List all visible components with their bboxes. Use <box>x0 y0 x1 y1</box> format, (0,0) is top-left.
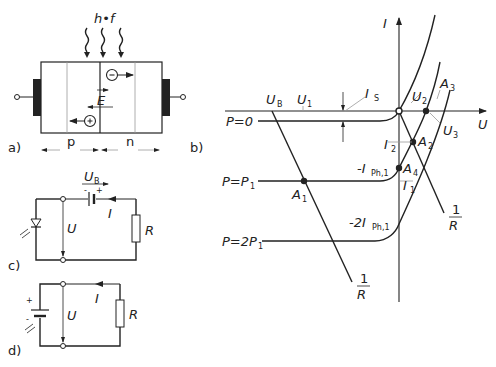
terminal-top <box>61 197 66 202</box>
panel-c-label: c) <box>8 258 20 273</box>
svg-text:B: B <box>94 177 100 186</box>
svg-text:-: - <box>26 315 29 324</box>
panel-c-circuit: U B - + I R U c) <box>8 169 154 273</box>
right-contact <box>162 79 170 116</box>
terminal-bottom <box>61 258 66 263</box>
svg-text:1: 1 <box>302 195 307 204</box>
current-label: I <box>95 291 99 306</box>
photodiode-icon <box>20 219 41 238</box>
svg-text:P=2P: P=2P <box>222 234 257 249</box>
svg-text:I: I <box>365 86 369 101</box>
svg-text:S: S <box>374 94 379 103</box>
svg-text:1: 1 <box>250 182 255 191</box>
photodiode-diagram: h•f E p n a) U B <box>0 0 496 367</box>
svg-text:1: 1 <box>452 202 460 217</box>
voltage-label: U <box>67 221 77 236</box>
svg-text:-: - <box>84 186 87 195</box>
resistor-label: R <box>129 307 138 322</box>
svg-text:1: 1 <box>360 271 368 286</box>
current-arrow-icon <box>95 281 103 287</box>
panel-b-characteristic: b) U I U B U 1 I S P=0 P=P 1 P=2P 1 <box>190 15 488 302</box>
curve-p0 <box>258 15 435 121</box>
field-label: E <box>97 93 106 108</box>
point-a4 <box>396 165 402 171</box>
left-contact <box>33 79 41 116</box>
terminal-top <box>61 282 66 287</box>
svg-text:+: + <box>26 296 33 305</box>
terminal-bottom <box>61 344 66 349</box>
svg-text:A: A <box>291 187 301 202</box>
svg-text:-I: -I <box>357 161 366 176</box>
load-label-left: 1 R <box>357 271 370 302</box>
panel-a-junction: h•f E p n a) <box>8 11 186 155</box>
svg-text:1: 1 <box>307 100 312 109</box>
svg-text:-2I: -2I <box>349 215 366 230</box>
right-terminal <box>181 95 186 100</box>
svg-text:I: I <box>384 137 388 152</box>
load-label-right: 1 R <box>449 202 462 233</box>
svg-text:3: 3 <box>450 84 455 93</box>
n-region-label: n <box>126 134 134 149</box>
current-label: I <box>108 206 112 221</box>
panel-d-label: d) <box>8 343 21 358</box>
u-axis-label: U <box>478 117 488 132</box>
svg-text:A: A <box>439 76 449 91</box>
point-a1 <box>301 178 307 184</box>
svg-text:I: I <box>403 178 407 193</box>
svg-text:U: U <box>297 92 307 107</box>
svg-text:U: U <box>443 123 453 138</box>
point-u2 <box>423 108 429 114</box>
svg-text:Ph,1: Ph,1 <box>371 169 389 178</box>
svg-text:R: R <box>449 218 458 233</box>
svg-text:1: 1 <box>410 186 415 195</box>
resistor-icon <box>116 300 124 327</box>
svg-text:3: 3 <box>453 131 458 140</box>
svg-text:U: U <box>412 89 422 104</box>
load-line-left <box>272 111 352 282</box>
resistor-icon <box>132 215 140 242</box>
current-arrow-icon <box>108 196 116 202</box>
ub-label: U <box>84 169 94 184</box>
i-axis-label: I <box>383 16 387 31</box>
resistor-label: R <box>145 223 154 238</box>
svg-text:2: 2 <box>391 145 396 154</box>
svg-text:P=0: P=0 <box>226 114 253 129</box>
svg-text:1: 1 <box>258 242 263 251</box>
photon-label: h•f <box>94 11 117 26</box>
svg-text:B: B <box>277 100 283 109</box>
svg-text:R: R <box>357 287 366 302</box>
svg-text:+: + <box>96 186 103 195</box>
panel-d-circuit: + - I R U d) <box>8 281 138 358</box>
voltage-label: U <box>67 308 77 323</box>
panel-a-label: a) <box>8 140 21 155</box>
svg-text:A: A <box>417 134 427 149</box>
svg-text:Ph,1: Ph,1 <box>372 223 390 232</box>
svg-text:4: 4 <box>413 169 418 178</box>
svg-text:A: A <box>402 161 412 176</box>
origin-point <box>396 108 402 114</box>
svg-text:2: 2 <box>428 142 433 151</box>
p-region-label: p <box>67 134 75 149</box>
left-terminal <box>15 95 20 100</box>
svg-text:2: 2 <box>422 97 427 106</box>
svg-text:U: U <box>266 92 276 107</box>
panel-b-label: b) <box>190 140 203 155</box>
svg-text:P=P: P=P <box>222 174 249 189</box>
photon-arrows-icon <box>84 28 124 58</box>
